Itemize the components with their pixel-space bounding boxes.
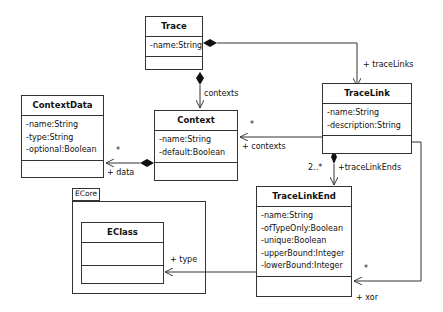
multiplicity-data: * (116, 146, 120, 156)
multiplicity-tracelinkends: 2..* (308, 163, 322, 173)
class-name: EClass (82, 223, 163, 243)
association-trace-contexts (196, 72, 204, 108)
class-name: Trace (146, 17, 202, 37)
class-name: TraceLinkEnd (257, 187, 351, 207)
role-label-data: + data (107, 168, 134, 178)
attribute: -name:String (327, 107, 407, 120)
attribute: -ofTypeOnly:Boolean (261, 223, 347, 236)
attribute: -upperBound:Integer (261, 248, 347, 261)
multiplicity-xor: * (364, 264, 368, 274)
attributes (82, 243, 163, 266)
association-tracelink-ends (331, 150, 337, 185)
role-label-xor: + xor (356, 293, 378, 303)
attribute: -lowerBound:Integer (261, 260, 347, 273)
class-name: Context (155, 111, 237, 131)
attribute: -name:String (150, 40, 198, 53)
role-label-type: + type (170, 255, 197, 265)
attributes: -name:String -type:String -optional:Bool… (22, 116, 103, 161)
attribute: -name:String (159, 134, 233, 147)
role-label-tracelinks: + traceLinks (363, 60, 413, 70)
attribute: -type:String (26, 132, 99, 145)
class-context[interactable]: Context -name:String -default:Boolean (154, 110, 238, 181)
attribute: -default:Boolean (159, 147, 233, 160)
class-name: TraceLink (323, 84, 411, 104)
class-tracelinkend[interactable]: TraceLinkEnd -name:String -ofTypeOnly:Bo… (256, 186, 352, 297)
multiplicity-contexts: * (250, 120, 254, 130)
class-trace[interactable]: Trace -name:String (145, 16, 203, 70)
role-label-tracelinkends: +traceLinkEnds (338, 163, 401, 173)
attributes: -name:String -ofTypeOnly:Boolean -unique… (257, 207, 351, 277)
attribute: -optional:Boolean (26, 144, 99, 157)
role-label-tracelink-contexts: + contexts (242, 142, 286, 152)
association-trace-tracelinks (203, 39, 357, 86)
attributes: -name:String -default:Boolean (155, 131, 237, 163)
attributes: -name:String (146, 37, 202, 57)
class-eclass[interactable]: EClass (81, 222, 164, 284)
role-label-contexts: contexts (204, 89, 238, 99)
class-tracelink[interactable]: TraceLink -name:String -description:Stri… (322, 83, 412, 154)
class-name: ContextData (22, 96, 103, 116)
attributes: -name:String -description:String (323, 104, 411, 136)
attribute: -name:String (26, 119, 99, 132)
attribute: -unique:Boolean (261, 235, 347, 248)
package-tab: ECore (72, 188, 100, 201)
class-contextdata[interactable]: ContextData -name:String -type:String -o… (21, 95, 104, 178)
association-context-data (106, 159, 154, 167)
attribute: -name:String (261, 210, 347, 223)
attribute: -description:String (327, 120, 407, 133)
